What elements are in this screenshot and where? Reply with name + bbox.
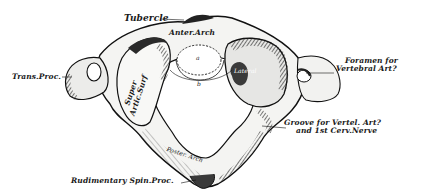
label-groove-vertebral-artery: Groove for Vertel. Art? and 1st Cerv.Ner… xyxy=(284,119,381,135)
label-foramen-line2: Vertebral Art? xyxy=(336,65,398,73)
label-trans-proc: Trans.Proc. xyxy=(12,73,61,81)
left-foramen-transversarium xyxy=(87,63,101,81)
label-foramen-vertebral-artery: Foramen for Vertebral Art? xyxy=(336,57,398,73)
label-letter-b: b xyxy=(197,80,201,87)
label-groove-line2: and 1st Cerv.Nerve xyxy=(284,127,381,135)
label-anterior-arch: Anter.Arch xyxy=(169,29,215,37)
right-foramen-transversarium xyxy=(297,70,311,82)
label-letter-a: a xyxy=(196,54,200,61)
atlas-vertebra-figure: Tubercle Anter.Arch Trans.Proc. Super Ar… xyxy=(0,0,422,194)
label-rudimentary-spin-proc: Rudimentary Spin.Proc. xyxy=(71,177,174,185)
label-tubercle: Tubercle xyxy=(124,13,169,23)
label-lateral-mass: Lateral xyxy=(234,67,257,74)
